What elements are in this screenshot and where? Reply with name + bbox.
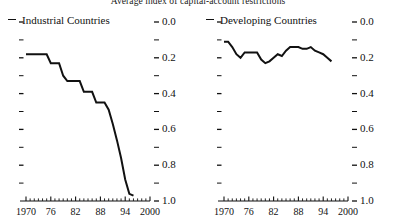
x-tick-label: 88 xyxy=(95,206,105,217)
x-tick-label: 2000 xyxy=(140,206,160,217)
x-tick-label: 88 xyxy=(293,206,303,217)
panel-developing-countries: Developing Countries 1.00.80.60.40.20.0 … xyxy=(198,0,396,223)
x-axis-labels-industrial: 1970768288942000 xyxy=(0,0,198,223)
x-tick-label: 76 xyxy=(244,206,254,217)
x-tick-label: 76 xyxy=(46,206,56,217)
x-tick-label: 1970 xyxy=(214,206,234,217)
x-tick-label: 1970 xyxy=(16,206,36,217)
x-tick-label: 82 xyxy=(269,206,279,217)
panel-industrial-countries: Industrial Countries 1.00.80.60.40.20.0 … xyxy=(0,0,198,223)
x-tick-label: 2000 xyxy=(338,206,358,217)
x-tick-label: 82 xyxy=(71,206,81,217)
x-tick-label: 94 xyxy=(318,206,328,217)
x-axis-labels-developing: 1970768288942000 xyxy=(198,0,396,223)
chart-figure: Average index of capital-account restric… xyxy=(0,0,396,223)
x-tick-label: 94 xyxy=(120,206,130,217)
